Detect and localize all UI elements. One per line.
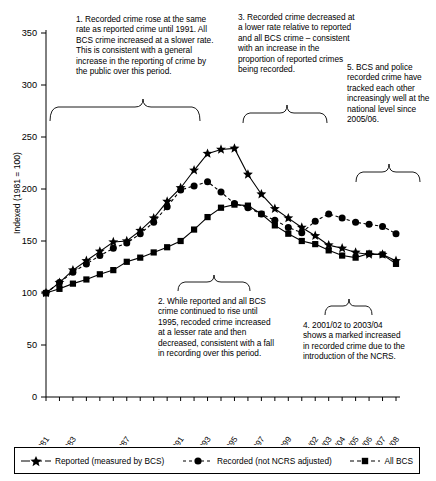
x-tick-label: 1983: [60, 435, 78, 445]
annotation-2: 2. While reported and all BCS crime cont…: [158, 296, 278, 358]
x-tick-label: 1999: [276, 435, 294, 445]
legend-item-recorded: Recorded (not NCRS adjusted): [183, 455, 332, 467]
y-tick-label: 350: [22, 28, 37, 38]
annotation-3: 3. Recorded crime decreased at a lower r…: [238, 12, 356, 74]
y-tick-label: 300: [22, 80, 37, 90]
brace-1: [50, 99, 200, 121]
x-tick-label: 1987: [114, 435, 132, 445]
chart-legend: Reported (measured by BCS) Recorded (not…: [14, 447, 420, 474]
legend-item-reported: Reported (measured by BCS): [21, 455, 164, 467]
legend-label-recorded: Recorded (not NCRS adjusted): [217, 456, 332, 466]
x-axis-tick-labels: 198119831987199119931995199719992001/022…: [33, 435, 401, 445]
y-tick-label: 250: [22, 132, 37, 142]
y-tick-label: 200: [22, 184, 37, 194]
y-tick-label: 50: [27, 340, 37, 350]
chart-figure: Indexed (1981 = 100) 0501001502002503003…: [0, 0, 436, 481]
x-tick-label: 1981: [33, 435, 51, 445]
legend-label-allbcs: All BCS: [384, 456, 413, 466]
square-marker: [350, 455, 380, 467]
series-star: [41, 143, 401, 297]
y-tick-label: 0: [32, 392, 37, 402]
y-axis-ticks: 050100150200250300350: [22, 28, 46, 402]
x-tick-label: 1991: [168, 435, 186, 445]
annotation-5: 5. BCS and police recorded crime have tr…: [347, 62, 431, 124]
legend-label-reported: Reported (measured by BCS): [55, 456, 164, 466]
brace-3: [243, 105, 327, 123]
brace-4: [325, 299, 372, 315]
star-marker: [21, 455, 51, 467]
y-tick-label: 150: [22, 236, 37, 246]
circle-marker: [183, 455, 213, 467]
x-tick-label: 1995: [222, 435, 240, 445]
x-tick-label: 1993: [195, 435, 213, 445]
x-axis-ticks: [46, 397, 396, 401]
y-axis-title: Indexed (1981 = 100): [12, 145, 22, 241]
legend-item-allbcs: All BCS: [350, 455, 413, 467]
x-tick-label: 1997: [249, 435, 267, 445]
chart-series-layer: [41, 143, 401, 297]
y-tick-label: 100: [22, 288, 37, 298]
series-circle: [43, 178, 400, 296]
x-tick-label: 2001/02: [296, 435, 321, 445]
brace-5: [356, 164, 420, 182]
annotation-4: 4. 2001/02 to 2003/04 shows a marked inc…: [303, 320, 408, 362]
annotation-1: 1. Recorded crime rose at the same rate …: [76, 14, 216, 76]
brace-2: [178, 275, 250, 291]
